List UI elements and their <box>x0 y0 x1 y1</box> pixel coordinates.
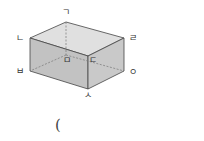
vertex-label-ieung: ㅇ <box>129 68 137 77</box>
rectangular-prism-figure <box>0 0 204 141</box>
vertex-label-digeut: ㄷ <box>89 56 97 65</box>
vertex-label-mieum: ㅁ <box>63 56 71 65</box>
vertex-label-nieun: ㄴ <box>16 34 24 43</box>
vertex-label-giyeok: ㄱ <box>62 8 70 17</box>
vertex-label-rieul: ㄹ <box>129 34 137 43</box>
answer-open-paren: ( <box>55 118 61 133</box>
vertex-label-siot: ㅅ <box>84 91 92 100</box>
vertex-label-bieup: ㅂ <box>16 67 24 76</box>
